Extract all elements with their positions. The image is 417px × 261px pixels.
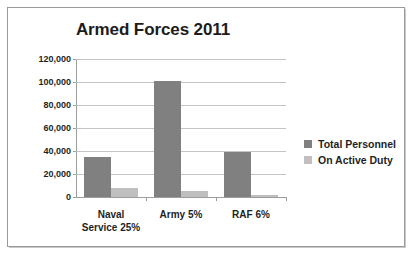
y-tick-label: 0 xyxy=(66,192,71,202)
legend-color-swatch xyxy=(304,140,312,148)
bar-total-personnel[interactable] xyxy=(224,152,251,197)
legend-item-label: On Active Duty xyxy=(318,154,393,166)
y-tick-label: 60,000 xyxy=(43,123,71,133)
bar-total-personnel[interactable] xyxy=(84,157,111,197)
y-tick-label: 100,000 xyxy=(38,77,71,87)
bar-group xyxy=(76,59,146,197)
legend-item[interactable]: On Active Duty xyxy=(304,152,396,168)
y-tick-label: 20,000 xyxy=(43,169,71,179)
bar-on-active-duty[interactable] xyxy=(111,188,138,197)
bar-total-personnel[interactable] xyxy=(154,81,181,197)
x-tick-mark xyxy=(146,197,147,201)
legend-color-swatch xyxy=(304,156,312,164)
x-axis-category-line: RAF 6% xyxy=(216,208,286,221)
legend-item[interactable]: Total Personnel xyxy=(304,136,396,152)
plot-area: 020,00040,00060,00080,000100,000120,000 … xyxy=(76,59,286,197)
x-tick-mark xyxy=(286,197,287,201)
x-axis-category-label: RAF 6% xyxy=(216,208,286,221)
y-tick-label: 120,000 xyxy=(38,54,71,64)
x-axis-category-line: Naval xyxy=(76,208,146,221)
x-axis-line xyxy=(76,197,286,198)
x-tick-mark xyxy=(216,197,217,201)
y-tick-label: 80,000 xyxy=(43,100,71,110)
chart-container: Armed Forces 2011 020,00040,00060,00080,… xyxy=(7,7,405,247)
y-tick-label: 40,000 xyxy=(43,146,71,156)
chart-legend: Total PersonnelOn Active Duty xyxy=(304,136,396,168)
legend-item-label: Total Personnel xyxy=(318,138,396,150)
x-axis-category-line: Army 5% xyxy=(146,208,216,221)
y-tick-mark xyxy=(73,197,76,198)
x-axis-category-label: NavalService 25% xyxy=(76,208,146,234)
bar-group xyxy=(216,59,286,197)
chart-title: Armed Forces 2011 xyxy=(8,20,298,40)
bar-on-active-duty[interactable] xyxy=(251,195,278,197)
x-axis-category-label: Army 5% xyxy=(146,208,216,221)
bar-group xyxy=(146,59,216,197)
bar-on-active-duty[interactable] xyxy=(181,191,208,197)
x-axis-category-line: Service 25% xyxy=(76,221,146,234)
